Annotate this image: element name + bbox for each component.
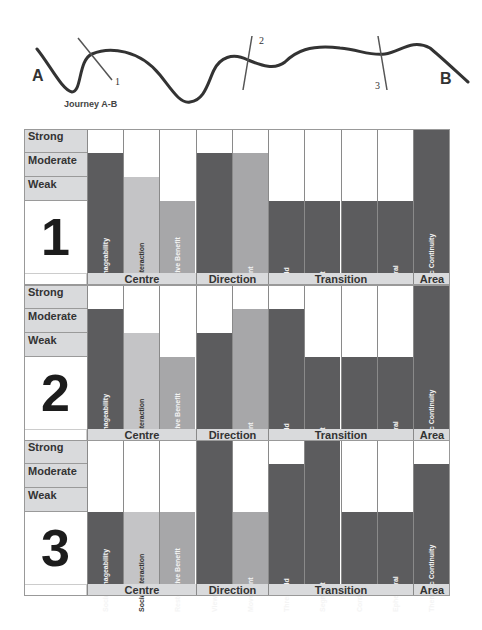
column-label-cell: Segment	[305, 357, 340, 429]
crossing-2-line	[243, 36, 252, 90]
level-bar	[414, 285, 449, 357]
column-social-interaction: Social Interaction	[123, 129, 159, 273]
group-header-row: CentreDirectionTransitionArea	[24, 273, 450, 285]
column-label: Social Imageability	[88, 544, 124, 616]
group-header-area: Area	[413, 273, 450, 285]
column-label-cell: Threshold	[269, 201, 304, 273]
column-social-imageability: Social Imageability	[87, 440, 123, 584]
crossing-1-label: 1	[115, 76, 120, 87]
column-label-cell: Segment	[305, 201, 340, 273]
column-label-cell: Restorative Benefit	[160, 512, 195, 584]
level-bar	[88, 309, 123, 357]
group-header-transition: Transition	[268, 273, 413, 285]
level-label-weak: Weak	[24, 333, 87, 357]
column-ephemeral: Ephemeral	[377, 440, 413, 584]
column-label: Movement	[233, 544, 269, 616]
column-restorative-benefit: Restorative Benefit	[159, 129, 195, 273]
column-label-cell: Social Interaction	[124, 201, 159, 273]
level-label-moderate: Moderate	[24, 309, 87, 333]
column-social-imageability: Social Imageability	[87, 285, 123, 429]
level-bar	[197, 440, 232, 512]
column-label: Social Interaction	[124, 544, 160, 616]
column-label-cell: View	[197, 357, 232, 429]
column-view: View	[196, 129, 232, 273]
column-label-cell: View	[197, 512, 232, 584]
column-label-cell: Ephemeral	[378, 512, 413, 584]
journey-title: Journey A-B	[64, 99, 118, 109]
start-label: A	[32, 67, 44, 84]
group-header-blank	[24, 273, 87, 285]
level-bar	[414, 464, 449, 512]
column-label: View	[197, 544, 233, 616]
column-corridor: Corridor	[341, 129, 377, 273]
column-label-cell: Thematic Continuity	[414, 201, 449, 273]
column-segment: Segment	[304, 129, 340, 273]
group-header-blank	[24, 584, 87, 596]
group-header-centre: Centre	[87, 273, 196, 285]
panel-number: 1	[24, 201, 87, 273]
column-label-cell: Segment	[305, 512, 340, 584]
column-social-interaction: Social Interaction	[123, 285, 159, 429]
level-bar	[88, 153, 123, 201]
level-bar	[197, 333, 232, 357]
column-label: Corridor	[342, 544, 378, 616]
column-label-cell: Ephemeral	[378, 201, 413, 273]
column-label-cell: Social Interaction	[124, 512, 159, 584]
level-label-weak: Weak	[24, 488, 87, 512]
column-label-cell: Social Imageability	[88, 201, 123, 273]
column-label-cell: Thematic Continuity	[414, 357, 449, 429]
column-segment: Segment	[304, 440, 340, 584]
column-label-cell: View	[197, 201, 232, 273]
group-header-area: Area	[413, 584, 450, 596]
level-bar	[269, 309, 304, 357]
column-social-imageability: Social Imageability	[87, 129, 123, 273]
column-view: View	[196, 285, 232, 429]
level-bar	[233, 309, 268, 357]
column-label-cell: Movement	[233, 201, 268, 273]
column-label: Threshold	[269, 544, 305, 616]
level-label-moderate: Moderate	[24, 464, 87, 488]
column-label-cell: Movement	[233, 512, 268, 584]
column-label: Segment	[305, 544, 341, 616]
group-header-row: CentreDirectionTransitionArea	[24, 584, 450, 596]
column-label-cell: Ephemeral	[378, 357, 413, 429]
panel-1: StrongModerateWeak1Social ImageabilitySo…	[24, 129, 450, 285]
column-threshold: Threshold	[268, 440, 304, 584]
level-bar	[305, 440, 340, 512]
end-label: B	[440, 70, 452, 87]
level-label-strong: Strong	[24, 285, 87, 309]
level-label-strong: Strong	[24, 440, 87, 464]
column-movement: Movement	[232, 440, 268, 584]
column-threshold: Threshold	[268, 129, 304, 273]
column-label: Restorative Benefit	[160, 544, 196, 616]
column-label-cell: Social Interaction	[124, 357, 159, 429]
column-label-cell: Restorative Benefit	[160, 357, 195, 429]
column-thematic-continuity: Thematic Continuity	[413, 440, 449, 584]
column-label-cell: Corridor	[342, 512, 377, 584]
column-social-interaction: Social Interaction	[123, 440, 159, 584]
column-thematic-continuity: Thematic Continuity	[413, 285, 449, 429]
column-label-cell: Social Imageability	[88, 512, 123, 584]
column-label: Thematic Continuity	[414, 544, 450, 616]
column-label-cell: Threshold	[269, 512, 304, 584]
level-bar	[414, 129, 449, 201]
panel-3: StrongModerateWeak3Social ImageabilitySo…	[24, 440, 450, 596]
column-segment: Segment	[304, 285, 340, 429]
group-header-transition: Transition	[268, 584, 413, 596]
column-movement: Movement	[232, 129, 268, 273]
level-bar	[124, 333, 159, 357]
column-label-cell: Social Imageability	[88, 357, 123, 429]
level-label-moderate: Moderate	[24, 153, 87, 177]
column-ephemeral: Ephemeral	[377, 129, 413, 273]
crossing-2-label: 2	[259, 35, 264, 46]
journey-path	[37, 44, 468, 102]
column-restorative-benefit: Restorative Benefit	[159, 285, 195, 429]
crossing-1-line	[78, 38, 112, 80]
column-ephemeral: Ephemeral	[377, 285, 413, 429]
column-movement: Movement	[232, 285, 268, 429]
column-label-cell: Threshold	[269, 357, 304, 429]
level-label-strong: Strong	[24, 129, 87, 153]
level-label-weak: Weak	[24, 177, 87, 201]
group-header-direction: Direction	[196, 584, 268, 596]
column-label-cell: Corridor	[342, 201, 377, 273]
